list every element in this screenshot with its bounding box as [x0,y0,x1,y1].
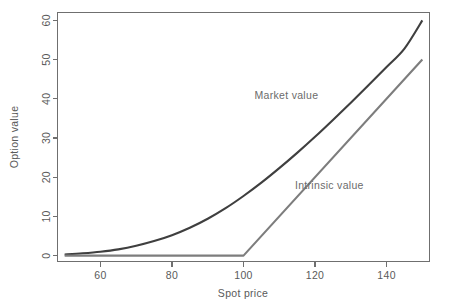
series-line-market-value [65,20,423,254]
x-axis-ticks: 6080100120140 [94,262,396,281]
data-series-group [65,20,423,255]
annotation-intrinsic-value: Intrinsic value [295,179,364,191]
y-tick-label: 50 [41,53,53,65]
y-tick-label: 10 [41,210,53,222]
x-tick-label: 140 [377,269,395,281]
series-line-intrinsic-value [65,60,423,256]
chart-figure: 0102030405060 6080100120140 Market value… [0,0,454,304]
y-axis-ticks: 0102030405060 [41,14,58,258]
x-tick-label: 60 [94,269,106,281]
y-tick-label: 60 [41,14,53,26]
y-tick-label: 0 [41,253,53,259]
y-tick-label: 30 [41,132,53,144]
x-tick-label: 120 [306,269,324,281]
x-tick-label: 100 [234,269,252,281]
plot-frame [58,13,430,262]
y-axis-title: Option value [8,106,20,169]
annotation-market-value: Market value [255,89,319,101]
x-axis-title: Spot price [218,287,268,299]
x-tick-label: 80 [166,269,178,281]
option-value-plot: 0102030405060 6080100120140 Market value… [0,0,454,304]
y-tick-label: 20 [41,171,53,183]
y-tick-label: 40 [41,93,53,105]
